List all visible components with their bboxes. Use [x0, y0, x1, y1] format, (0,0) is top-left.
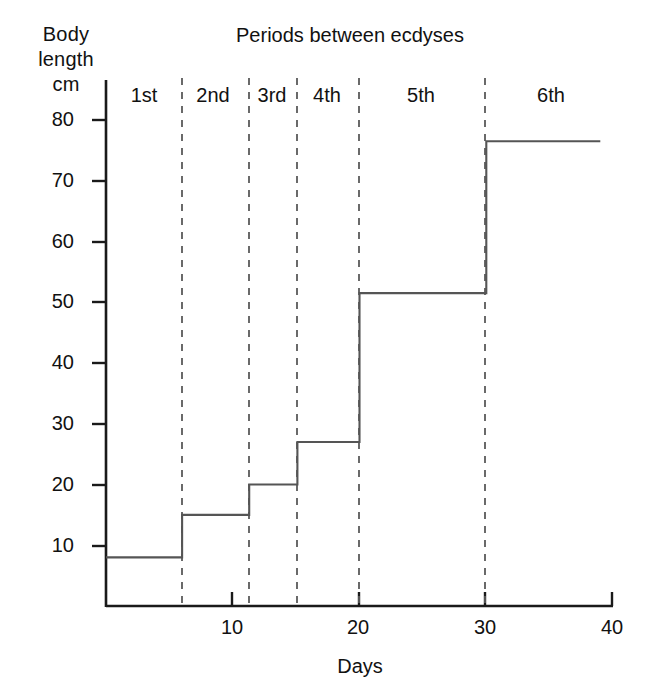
chart-plot-area — [0, 0, 646, 693]
x-axis-ticks — [232, 592, 612, 606]
growth-step-curve — [106, 141, 600, 557]
y-axis-ticks — [92, 120, 106, 546]
chart-figure: Body length cm Periods between ecdyses 8… — [0, 0, 646, 693]
ecdysis-dividers — [182, 78, 485, 606]
